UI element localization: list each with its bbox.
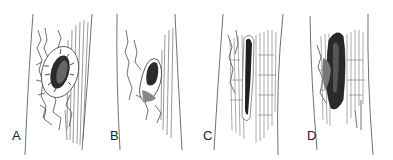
panel-b: B (100, 0, 200, 160)
panel-a: A (0, 0, 100, 160)
panel-d: D (295, 0, 393, 160)
panel-c: C (200, 0, 295, 160)
panel-label-b: B (110, 128, 119, 143)
panel-label-c: C (203, 128, 212, 143)
panel-label-a: A (12, 128, 21, 143)
panel-label-d: D (307, 128, 316, 143)
bark-canker-c-illustration (200, 0, 295, 160)
